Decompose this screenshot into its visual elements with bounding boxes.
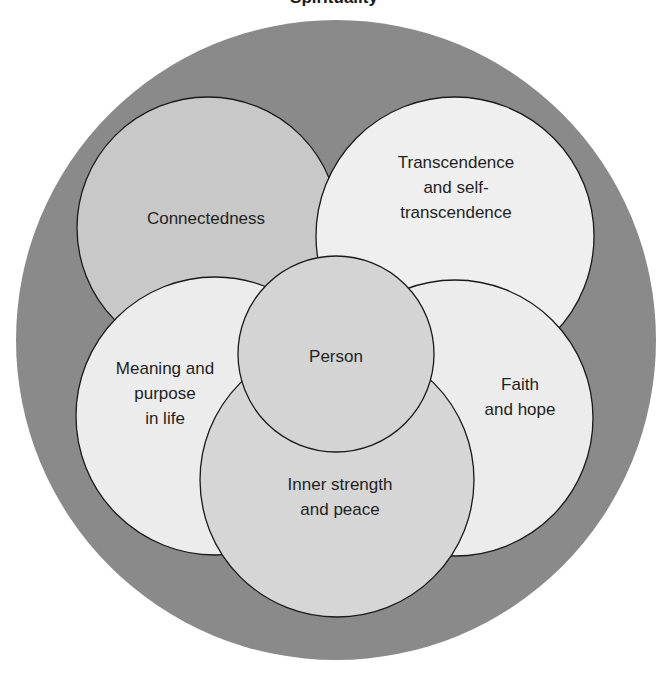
transcendence-label: Transcendence and self- transcendence <box>398 150 515 225</box>
inner-strength-line-1: Inner strength <box>288 472 393 497</box>
connectedness-label: Connectedness <box>147 206 265 231</box>
person-text: Person <box>309 347 363 366</box>
meaning-line-2: purpose <box>116 381 214 406</box>
transcendence-line-3: transcendence <box>398 200 515 225</box>
person-label: Person <box>309 344 363 369</box>
faith-label: Faith and hope <box>485 372 556 422</box>
meaning-line-3: in life <box>116 406 214 431</box>
inner-strength-label: Inner strength and peace <box>288 472 393 522</box>
faith-line-1: Faith <box>485 372 556 397</box>
transcendence-line-1: Transcendence <box>398 150 515 175</box>
connectedness-text: Connectedness <box>147 209 265 228</box>
inner-strength-line-2: and peace <box>288 497 393 522</box>
venn-diagram <box>0 0 668 679</box>
meaning-label: Meaning and purpose in life <box>116 356 214 431</box>
transcendence-line-2: and self- <box>398 175 515 200</box>
meaning-line-1: Meaning and <box>116 356 214 381</box>
faith-line-2: and hope <box>485 397 556 422</box>
